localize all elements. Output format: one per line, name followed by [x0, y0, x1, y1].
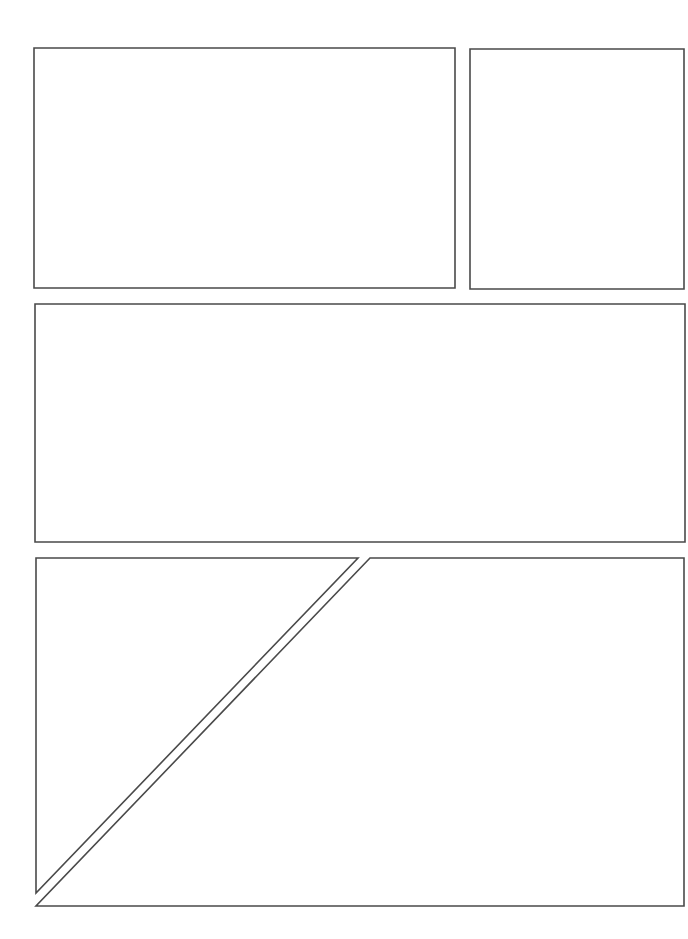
comic-page: [0, 0, 688, 939]
panel-top-left: [34, 48, 455, 288]
panel-top-right: [470, 49, 684, 289]
panel-middle-wide: [35, 304, 685, 542]
panel-layout: [0, 0, 688, 939]
